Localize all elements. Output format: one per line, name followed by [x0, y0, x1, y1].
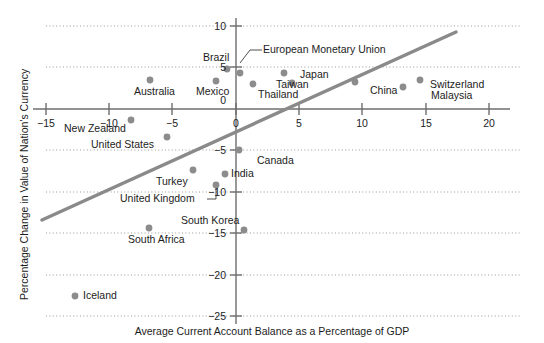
ytick-label-3: −5 — [196, 144, 226, 156]
point-label-south-africa: South Africa — [128, 234, 185, 245]
ytick-label-5: −15 — [196, 227, 226, 239]
point-india — [222, 171, 229, 178]
scatter-plot-figure: −15 −10 −5 0 5 10 15 20 10 5 0 −5 −10 −1… — [0, 0, 544, 343]
point-label-china: China — [370, 85, 397, 96]
xtick-label-3: 0 — [222, 117, 250, 129]
point-label-malaysia: Malaysia — [431, 90, 472, 101]
point-malaysia — [400, 84, 407, 91]
point-label-new-zealand: New Zealand — [64, 123, 126, 134]
point-china — [352, 79, 359, 86]
point-label-united-kingdom: United Kingdom — [120, 193, 195, 204]
point-japan — [281, 70, 288, 77]
point-label-australia: Australia — [134, 86, 175, 97]
xtick-label-4: 5 — [285, 117, 313, 129]
point-label-south-korea: South Korea — [181, 215, 239, 226]
ytick-label-6: −20 — [196, 269, 226, 281]
xtick-label-2: −5 — [158, 117, 186, 129]
point-south-africa — [146, 225, 153, 232]
point-switzerland — [417, 77, 424, 84]
xtick-label-5: 10 — [348, 117, 376, 129]
xtick-label-6: 15 — [412, 117, 440, 129]
point-iceland — [72, 293, 79, 300]
y-axis-title: Percentage Change in Value of Nation's C… — [18, 69, 30, 300]
point-turkey — [190, 167, 197, 174]
ytick-label-0: 10 — [196, 20, 226, 32]
x-axis-title: Average Current Account Balance as a Per… — [0, 325, 544, 337]
point-new-zealand — [128, 117, 135, 124]
emu-leader-line — [240, 50, 262, 63]
point-label-thailand: Thailand — [258, 89, 298, 100]
ytick-label-7: −25 — [196, 310, 226, 322]
point-thailand — [250, 81, 257, 88]
point-european-monetary-union — [237, 70, 244, 77]
xtick-label-0: −15 — [32, 117, 60, 129]
point-label-united-states: United States — [91, 139, 154, 150]
point-united-states — [164, 134, 171, 141]
point-australia — [147, 77, 154, 84]
point-label-mexico: Mexico — [196, 86, 229, 97]
x-axis — [33, 103, 510, 115]
point-label-brazil: Brazil — [203, 52, 229, 63]
point-label-india: India — [231, 168, 254, 179]
point-label-iceland: Iceland — [83, 290, 117, 301]
point-south-korea — [241, 227, 248, 234]
point-label-european-monetary-union: European Monetary Union — [263, 44, 386, 55]
gridlines — [46, 26, 520, 316]
ytick-label-4: −10 — [196, 186, 226, 198]
point-mexico — [213, 78, 220, 85]
point-canada — [236, 147, 243, 154]
point-label-turkey: Turkey — [156, 176, 188, 187]
xtick-label-7: 20 — [475, 117, 503, 129]
point-label-canada: Canada — [257, 155, 294, 166]
